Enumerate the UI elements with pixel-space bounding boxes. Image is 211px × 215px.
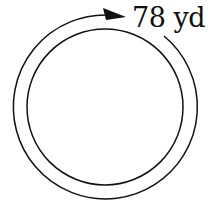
- inner-circle: [27, 29, 183, 185]
- outer-arc: [13, 15, 197, 199]
- arrowhead-icon: [103, 8, 126, 20]
- distance-label: 78 yd: [132, 2, 205, 33]
